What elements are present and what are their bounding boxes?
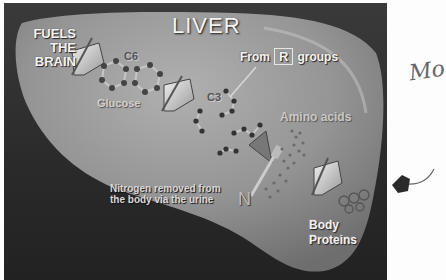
slide-title: LIVER xyxy=(172,13,241,39)
r-groups-prefix: From xyxy=(240,50,270,64)
proteins-line-2: Proteins xyxy=(309,233,357,248)
glucose-label: Glucose xyxy=(97,97,140,109)
nitrogen-symbol: N xyxy=(238,189,251,210)
proteins-line-1: Body xyxy=(309,218,357,233)
fuels-line-2: THE xyxy=(16,41,76,55)
handwritten-arrow-icon xyxy=(388,165,436,205)
r-symbol-box: R xyxy=(274,48,293,65)
fuels-the-brain-label: FUELS THE BRAIN xyxy=(16,27,76,69)
pyruvate-formula: C3 xyxy=(207,91,221,103)
fuels-line-1: FUELS xyxy=(16,27,76,41)
r-groups-label: FromRgroups xyxy=(240,48,338,65)
glucose-formula: C6 xyxy=(124,50,138,62)
amino-acids-label: Amino acids xyxy=(280,110,351,124)
fuels-line-3: BRAIN xyxy=(16,55,76,69)
liver-slide: LIVER FUELS THE BRAIN C6 Glucose C3 From… xyxy=(4,3,387,280)
nitrogen-note-line-1: Nitrogen removed from xyxy=(110,183,221,194)
r-groups-suffix: groups xyxy=(297,50,338,64)
nitrogen-note-line-2: the body via the urine xyxy=(110,194,221,205)
handwritten-note: Mo xyxy=(407,56,446,86)
nitrogen-note: Nitrogen removed from the body via the u… xyxy=(110,183,221,205)
body-proteins-label: Body Proteins xyxy=(309,218,357,248)
